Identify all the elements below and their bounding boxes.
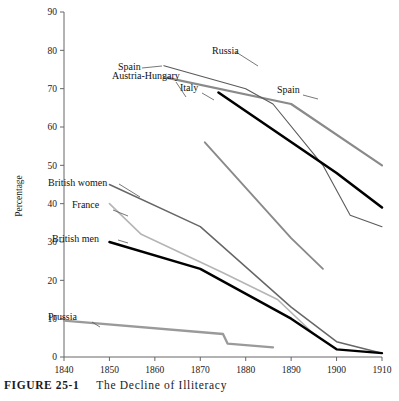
leader-line-7 <box>118 240 128 243</box>
series-label-british-women: British women <box>48 177 107 188</box>
series-label-british-men: British men <box>52 233 99 244</box>
line-chart: 0102030405060708090184018501860187018801… <box>0 0 399 401</box>
series-label-italy: Italy <box>180 82 198 93</box>
leader-line-1 <box>236 52 258 66</box>
y-tick-label: 40 <box>48 199 58 209</box>
leader-line-0 <box>142 66 162 68</box>
y-tick-label: 90 <box>48 7 58 17</box>
y-tick-label: 80 <box>48 46 58 56</box>
series-line-prussia <box>64 321 273 348</box>
leader-line-3 <box>303 95 318 99</box>
figure-illiteracy: 0102030405060708090184018501860187018801… <box>0 0 399 401</box>
figure-title: The Decline of Illiteracy <box>96 379 227 391</box>
y-tick-label: 50 <box>48 161 58 171</box>
series-label-prussia: Prussia <box>48 311 77 322</box>
x-tick-label: 1910 <box>373 365 392 375</box>
y-tick-label: 60 <box>48 122 58 132</box>
y-axis-title: Percentage <box>14 175 24 217</box>
y-tick-label: 20 <box>48 276 58 286</box>
x-tick-label: 1890 <box>282 365 301 375</box>
figure-caption: FIGURE 25-1The Decline of Illiteracy <box>4 379 396 391</box>
x-tick-label: 1900 <box>327 365 346 375</box>
y-tick-label: 0 <box>52 352 57 362</box>
y-tick-label: 70 <box>48 84 58 94</box>
x-tick-label: 1870 <box>191 365 210 375</box>
series-label-spain: Spain <box>277 84 300 95</box>
x-tick-label: 1880 <box>236 365 255 375</box>
series-label-austria-hungary: Austria-Hungary <box>112 70 180 81</box>
x-tick-label: 1860 <box>145 365 164 375</box>
figure-number: FIGURE 25-1 <box>4 379 79 391</box>
series-line-british-men <box>109 242 382 353</box>
x-tick-label: 1840 <box>55 365 74 375</box>
series-line-austria-hungary <box>205 142 323 268</box>
series-label-russia: Russia <box>212 45 239 56</box>
series-label-france: France <box>72 199 100 210</box>
x-tick-label: 1850 <box>100 365 119 375</box>
leader-line-2 <box>202 93 214 100</box>
